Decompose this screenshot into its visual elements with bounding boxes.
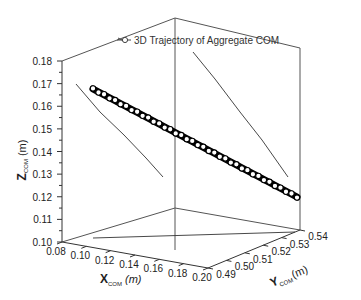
trajectory-point — [190, 138, 195, 143]
trajectory-point — [151, 119, 156, 124]
y-tick-label: 0.52 — [271, 246, 291, 257]
trajectory-point — [283, 189, 288, 194]
trajectory-point — [206, 148, 211, 153]
trajectory-point — [96, 90, 101, 95]
y-tick-label: 0.50 — [235, 261, 255, 272]
y-tick-label: 0.49 — [216, 269, 236, 280]
trajectory-point — [201, 144, 206, 149]
x-tick-label: 0.08 — [46, 246, 66, 257]
trajectory-point — [272, 183, 277, 188]
y-tick-label: 0.51 — [253, 254, 273, 265]
trajectory-point — [294, 195, 299, 200]
z-tick-label: 0.13 — [33, 169, 53, 180]
trajectory-point — [256, 173, 261, 178]
trajectory-point — [101, 92, 106, 97]
trajectory-point — [112, 97, 117, 102]
trajectory-point — [90, 86, 95, 91]
z-tick-label: 0.12 — [33, 192, 53, 203]
trajectory-point — [173, 131, 178, 136]
x-tick-label: 0.12 — [95, 255, 115, 266]
trajectory-point — [212, 150, 217, 155]
svg-text:ZCOM(m): ZCOM(m) — [15, 140, 29, 181]
y-axis-title: YCOM(m) — [268, 262, 310, 291]
z-tick-label: 0.17 — [33, 79, 53, 90]
xz-wall-projection — [76, 84, 163, 177]
trajectory-point — [156, 121, 161, 126]
legend-marker-icon — [122, 37, 127, 42]
trajectory-point — [278, 185, 283, 190]
x-tick-label: 0.10 — [71, 250, 91, 261]
x-tick-label: 0.18 — [168, 268, 188, 279]
z-tick-label: 0.11 — [33, 214, 52, 225]
trajectory-point — [145, 115, 150, 120]
x-tick-label: 0.14 — [119, 259, 139, 270]
trajectory-point — [234, 162, 239, 167]
trajectory-point — [129, 107, 134, 112]
trajectory-point — [261, 177, 266, 182]
trajectory-point — [250, 172, 255, 177]
z-tick-label: 0.14 — [33, 147, 53, 158]
yz-wall-projection — [193, 52, 288, 177]
svg-text:YCOM(m): YCOM(m) — [268, 262, 310, 291]
trajectory-point — [123, 103, 128, 108]
trajectory-point — [140, 113, 145, 118]
trajectory-point — [245, 167, 250, 172]
trajectory-point — [217, 154, 222, 159]
z-tick-label: 0.16 — [33, 101, 53, 112]
trajectory-point — [162, 125, 167, 130]
z-axis-ticks: 0.100.110.120.130.140.150.160.170.18 — [33, 56, 62, 248]
legend-label: 3D Trajectory of Aggregate COM — [134, 35, 279, 46]
x-tick-label: 0.20 — [192, 272, 212, 283]
x-tick-label: 0.16 — [144, 263, 164, 274]
trajectory-point — [239, 166, 244, 171]
trajectory-point — [267, 179, 272, 184]
trajectory-point — [107, 96, 112, 101]
trajectory-point — [179, 132, 184, 137]
xy-floor-projection — [93, 232, 295, 238]
svg-text:XCOM(m): XCOM(m) — [100, 272, 142, 287]
x-axis-title: XCOM(m) — [100, 272, 142, 287]
legend: 3D Trajectory of Aggregate COM — [117, 35, 279, 46]
y-axis-ticks: 0.490.500.510.520.530.54 — [208, 230, 328, 280]
y-tick-label: 0.53 — [290, 239, 310, 250]
z-tick-label: 0.15 — [33, 124, 53, 135]
trajectory-point — [289, 191, 294, 196]
trajectory-point — [184, 137, 189, 142]
y-tick-label: 0.54 — [308, 231, 328, 242]
trajectory-3d-chart: 0.100.110.120.130.140.150.160.170.18 0.0… — [0, 0, 361, 300]
trajectory-point — [195, 142, 200, 147]
trajectory-point — [167, 127, 172, 132]
z-axis-title: ZCOM(m) — [15, 140, 29, 181]
trajectory-point — [118, 101, 123, 106]
trajectory-point — [228, 160, 233, 165]
trajectory-point — [134, 109, 139, 114]
z-tick-label: 0.18 — [33, 56, 53, 67]
trajectory-point — [223, 156, 228, 161]
trajectory-series — [90, 86, 299, 201]
